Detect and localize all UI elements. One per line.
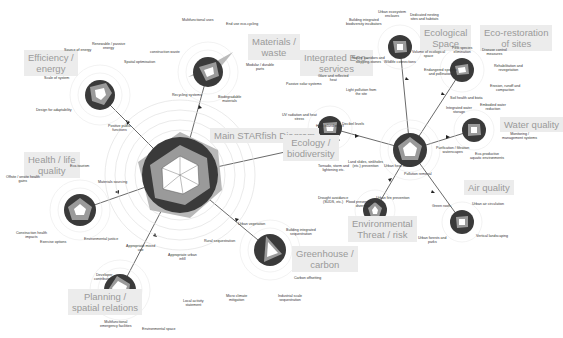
category-environmental-threat: Environmental Threat / risk (348, 216, 417, 242)
criterion-label: Light pollution from the site (346, 88, 376, 96)
criterion-label: Multifunctional emergency facilities (100, 320, 132, 328)
criterion-label: Appropriate urban infill (168, 253, 197, 261)
criterion-label: Flood prevention and diversion (346, 200, 380, 208)
criterion-label: Eco-productive aquatic environments (470, 152, 504, 160)
criterion-label: Green roofs (432, 204, 451, 208)
criterion-label: Materials sourcing (98, 180, 127, 184)
criterion-label: Endangered species and pollination (424, 68, 457, 76)
category-greenhouse-carbon: Greenhouse / carbon (292, 246, 358, 272)
criterion-label: Positive public functions (108, 124, 131, 132)
criterion-label: Integrated water storage (446, 106, 472, 114)
criterion-label: Modular / durable parts (246, 63, 274, 71)
criterion-label: Pest species elimination (452, 46, 472, 54)
criterion-label: Developer contributions (94, 273, 114, 281)
criterion-label: Urban air circulation (472, 202, 504, 206)
criterion-label: Purification / filtration waterscapes (436, 146, 469, 154)
criterion-label: Local activity statement (183, 299, 204, 307)
criterion-label: Offsite / onsite health gains (6, 175, 40, 183)
criterion-label: Drought avoidance (SUDS, etc.) (318, 196, 348, 204)
criterion-label: Design for adaptability (36, 108, 72, 112)
criterion-label: Source of energy (64, 48, 91, 52)
criterion-label: Land slides, sinkholes (etc.) prevention (348, 160, 383, 168)
criterion-label: Appropriate mixed use (126, 244, 155, 252)
criterion-label: Soil health and biota (450, 96, 483, 100)
criterion-label: Micro climate mitigation (226, 294, 247, 302)
criterion-label: Building integrated biodiversity incubat… (346, 18, 382, 26)
criterion-label: Monitoring / management systems (502, 132, 537, 140)
criterion-label: Dedicated nesting sites and habitats (410, 13, 439, 21)
criterion-label: Volume of ecological space (412, 50, 445, 58)
criterion-label: Rehabilitation and revegetation (494, 64, 523, 72)
criterion-label: Erosion, runoff and compaction (490, 84, 520, 92)
criterion-label: Vertical landscaping (476, 234, 508, 238)
criterion-label: Renewable / passive energy (92, 42, 125, 50)
criterion-label: Passive solar systems (286, 82, 322, 86)
criterion-label: Urban forests and parks (418, 236, 447, 244)
category-water-quality: Water quality (500, 117, 563, 132)
criterion-label: Urban heat island (384, 164, 412, 168)
criterion-label: Wildlife connections (384, 60, 416, 64)
criterion-label: UV radiation and heat stress (282, 113, 317, 121)
criterion-label: Glare and reflected heat (318, 74, 349, 82)
criterion-label: Spatial optimisation (124, 60, 155, 64)
criterion-label: Embodied water reduction (480, 103, 506, 111)
criterion-label: Biodegradable materials (218, 95, 241, 103)
criterion-label: Environmental space (142, 327, 176, 331)
criterion-label: Eco-tourism (70, 164, 89, 168)
category-materials-waste: Materials / waste (248, 34, 300, 60)
criterion-label: Construction health impacts (16, 231, 47, 239)
criterion-label: Building integrated sequestration (286, 228, 316, 236)
criterion-label: Multifunctional uses (182, 18, 214, 22)
criterion-label: Scale of system (44, 76, 69, 80)
criterion-label: Rural sequestration (204, 239, 235, 243)
criterion-label: Pollution removal (404, 172, 432, 176)
category-ecology-biodiversity: Ecology / biodiversity (283, 135, 339, 161)
criterion-label: Heat island effect (316, 124, 344, 128)
criterion-label: Urban vegetation (238, 222, 265, 226)
criterion-label: Environmental justice (84, 237, 118, 241)
category-planning-spatial: Planning / spatial relations (68, 289, 142, 315)
criterion-label: Tornado, storm and lightening etc. (318, 164, 349, 172)
criterion-label: End use eco-cycling (226, 22, 258, 26)
criterion-label: Recycling systems (172, 93, 202, 97)
criterion-label: Nature corridors and stepping-stones (352, 56, 385, 64)
category-air-quality: Air quality (464, 180, 514, 195)
criterion-label: Disease control measures (482, 48, 507, 56)
criterion-label: Exercise options (40, 240, 66, 244)
criterion-label: Industrial scale sequestration (278, 294, 302, 302)
criterion-label: construction waste (150, 50, 180, 54)
category-efficiency-energy: Efficiency / energy (24, 50, 78, 76)
criterion-label: Decibel levels (342, 122, 364, 126)
criterion-label: Urban fire prevention (376, 196, 410, 200)
criterion-label: Urban ecosystem enclaves (378, 10, 406, 18)
criterion-label: Carbon offsetting (294, 276, 321, 280)
